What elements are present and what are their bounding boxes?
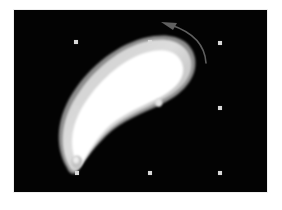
banana-tip-core — [73, 156, 79, 163]
handle-middle-right[interactable] — [218, 106, 222, 110]
handle-bottom-center[interactable] — [148, 171, 152, 175]
canvas-frame — [13, 9, 268, 193]
handle-bottom-left[interactable] — [75, 171, 79, 175]
app-root — [0, 0, 282, 210]
handle-top-center[interactable] — [148, 40, 152, 44]
handle-middle-left[interactable] — [74, 106, 78, 110]
handle-top-right[interactable] — [218, 41, 222, 45]
handle-bottom-right[interactable] — [218, 171, 222, 175]
handle-top-left[interactable] — [74, 40, 78, 44]
rotation-arrow-head — [161, 22, 177, 30]
viewport-scene — [14, 10, 267, 192]
banana-shape[interactable] — [59, 35, 196, 173]
banana-highlight-layer — [72, 50, 183, 165]
viewport-canvas[interactable] — [14, 10, 267, 192]
